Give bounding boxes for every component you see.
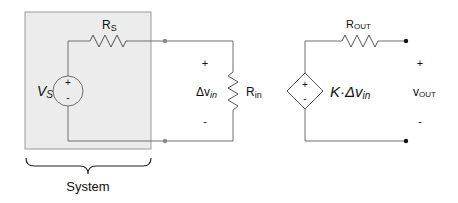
input-resistor-label: Rin: [246, 85, 262, 100]
source-minus: -: [66, 92, 69, 103]
input-node-top: [163, 39, 167, 43]
input-voltage-label: Δvin: [196, 85, 217, 100]
input-resistor: [228, 72, 238, 110]
source-plus: +: [65, 77, 71, 88]
dependent-source-minus: -: [303, 93, 306, 104]
output-node-top: [404, 39, 408, 43]
dependent-source-plus: +: [302, 79, 308, 90]
system-box: [25, 12, 151, 149]
input-node-bottom: [163, 139, 167, 143]
output-resistor-label: ROUT: [346, 18, 371, 31]
circuit-diagram: System RS + - VS Rin + Δvin - + - K·Δvin…: [0, 0, 458, 203]
input-voltage-minus: -: [203, 115, 207, 127]
dependent-source-label: K·Δvin: [330, 83, 371, 101]
system-brace: [26, 158, 151, 174]
output-resistor: [342, 35, 378, 47]
output-voltage-plus: +: [417, 57, 423, 69]
input-voltage-plus: +: [202, 57, 208, 69]
output-voltage-label: vOUT: [413, 85, 436, 99]
output-voltage-minus: -: [418, 115, 422, 127]
system-label: System: [66, 179, 109, 194]
output-node-bottom: [404, 139, 408, 143]
